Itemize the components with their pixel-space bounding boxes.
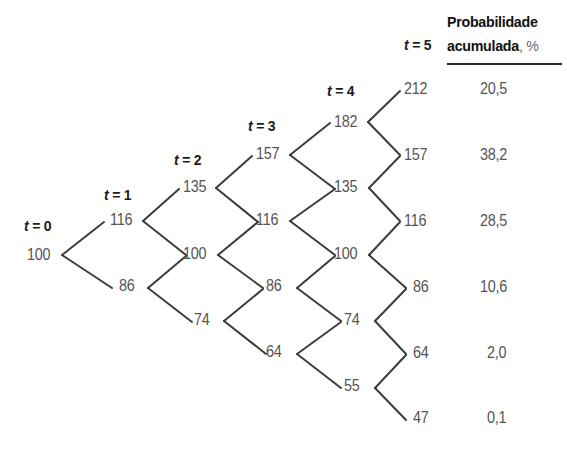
tree-edge [62,255,112,288]
tree-node-value: 157 [256,145,279,163]
tree-edge [297,288,341,321]
tree-edge [148,256,186,288]
tree-edge [290,221,335,255]
tree-edge [369,255,406,288]
tree-edge [297,354,341,388]
tree-edge [375,321,406,354]
tree-node-value: 116 [110,211,132,229]
tree-node-value: 182 [334,113,357,131]
header-unit-percent: , % [519,37,539,54]
time-label-t2: t = 2 [174,152,201,168]
tree-node-value: 100 [334,245,357,263]
tree-node-value: 74 [344,311,359,329]
time-value: = 1 [108,187,131,203]
cumulative-probability-value: 10,6 [480,278,507,296]
time-value: = 3 [252,118,275,134]
time-value: = 5 [408,37,431,53]
tree-node-value: 55 [344,377,359,395]
tree-node-value: 74 [194,311,209,329]
probability-header-line1: Probabilidade [447,13,538,30]
tree-edge [297,322,341,354]
tree-edge [369,222,400,255]
tree-edge [218,222,258,255]
time-label-t4: t = 4 [327,83,354,99]
tree-edge [375,355,406,388]
tree-node-value: 86 [413,278,428,296]
header-underline [447,63,562,65]
tree-node-value: 116 [256,211,278,229]
tree-edge [297,256,335,288]
tree-edge [143,189,179,221]
probability-header-line2: acumulada, % [447,37,539,54]
tree-node-value: 135 [183,178,206,196]
tree-edge [216,156,252,188]
tree-edge [62,222,104,255]
tree-node-value: 100 [183,245,206,263]
tree-edge [148,288,192,322]
cumulative-probability-value: 0,1 [487,409,506,427]
tree-node-value: 47 [413,409,428,427]
cumulative-probability-value: 2,0 [487,344,506,362]
tree-edge [224,321,266,354]
tree-edge [375,388,406,420]
tree-edge [224,289,263,321]
time-value: = 4 [331,83,354,99]
header-word-acumulada: acumulada [447,37,519,54]
tree-edge [369,188,400,221]
tree-node-value: 212 [404,80,427,98]
tree-edge [143,221,186,255]
tree-edge [290,189,335,221]
time-value: = 2 [178,152,201,168]
time-label-t1: t = 1 [104,187,131,203]
tree-edge [369,156,400,188]
cumulative-probability-value: 20,5 [480,80,507,98]
time-value: = 0 [28,218,51,234]
tree-node-value: 116 [404,212,426,230]
cumulative-probability-value: 28,5 [480,212,507,230]
tree-node-value: 64 [413,344,428,362]
tree-node-value: 100 [27,246,50,264]
cumulative-probability-value: 38,2 [480,146,507,164]
tree-node-value: 86 [266,277,281,295]
tree-node-value: 64 [266,343,281,361]
tree-edge [290,123,330,155]
tree-node-value: 157 [404,146,427,164]
tree-node-value: 86 [119,277,134,295]
time-label-t0: t = 0 [24,218,51,234]
tree-edge [218,255,263,288]
tree-edge [368,91,400,122]
time-label-t3: t = 3 [248,118,275,134]
tree-edge [290,155,335,189]
tree-edge [368,122,400,155]
time-label-t5: t = 5 [404,37,431,53]
binomial-tree-figure: t = 0t = 1t = 2t = 3t = 4t = 5 100116861… [0,0,567,454]
tree-node-value: 135 [334,178,357,196]
tree-edge [375,289,406,321]
tree-edge [216,188,258,222]
